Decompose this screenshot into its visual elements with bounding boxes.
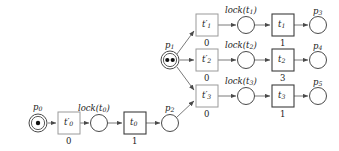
token-p1-1	[165, 58, 169, 62]
place-p0[interactable]	[29, 114, 47, 132]
place-p4[interactable]	[310, 52, 327, 69]
place-circle-lock_t0	[91, 115, 108, 132]
place-circle-p5	[310, 88, 327, 105]
transition-label-t2: t2	[278, 55, 285, 64]
place-p5[interactable]	[310, 88, 327, 105]
transition-weight-tp1: 0	[204, 39, 209, 48]
place-label-p1: p1	[165, 41, 174, 50]
transition-label-t3: t3	[278, 91, 285, 100]
place-lock_t2[interactable]	[238, 52, 255, 69]
transition-label-tp0: t′0	[64, 118, 73, 127]
place-label-p4: p4	[313, 42, 322, 51]
transition-weight-t0: 1	[132, 137, 137, 146]
place-p2[interactable]	[162, 115, 179, 132]
place-circle-p4	[310, 52, 327, 69]
arc-p2-to-tp3	[177, 101, 194, 117]
transition-label-t1: t1	[278, 20, 285, 29]
place-circle-lock_t3	[238, 88, 255, 105]
transition-label-tp1: t′1	[202, 20, 211, 29]
lock-label-lock_t3_label: lock(t3)	[225, 77, 257, 86]
place-p1[interactable]	[161, 51, 179, 69]
petri-net-diagram: p0p1p2p3p4p5t′00t01t′10t11t′20t23t′30t31…	[0, 0, 339, 151]
lock-label-lock_t2_label: lock(t2)	[225, 41, 257, 50]
place-circle-lock_t2	[238, 52, 255, 69]
transition-label-t0: t0	[130, 118, 137, 127]
transition-weight-t3: 1	[280, 110, 285, 119]
place-label-p3: p3	[313, 7, 322, 16]
transition-label-tp2: t′2	[202, 55, 211, 64]
place-lock_t1[interactable]	[238, 17, 255, 34]
transition-weight-tp2: 0	[204, 74, 209, 83]
transition-weight-tp0: 0	[66, 137, 71, 146]
lock-label-lock_t1_label: lock(t1)	[225, 6, 257, 15]
place-p3[interactable]	[310, 17, 327, 34]
arc-p1-to-tp1	[177, 31, 194, 54]
token-p0-1	[36, 121, 40, 125]
place-label-p5: p5	[313, 78, 322, 87]
transition-label-tp3: t′3	[202, 91, 211, 100]
lock-label-lock_t0_label: lock(t0)	[78, 104, 110, 113]
place-lock_t3[interactable]	[238, 88, 255, 105]
place-circle-p3	[310, 17, 327, 34]
place-label-p0: p0	[33, 103, 42, 112]
transition-weight-tp3: 0	[204, 110, 209, 119]
petri-net-canvas	[0, 0, 339, 151]
arc-p1-to-tp3	[177, 67, 194, 90]
place-lock_t0[interactable]	[91, 115, 108, 132]
place-circle-p2	[162, 115, 179, 132]
transition-weight-t1: 1	[280, 39, 285, 48]
transition-weight-t2: 3	[280, 74, 285, 83]
place-circle-lock_t1	[238, 17, 255, 34]
place-label-p2: p2	[165, 104, 174, 113]
token-p1-2	[171, 58, 175, 62]
